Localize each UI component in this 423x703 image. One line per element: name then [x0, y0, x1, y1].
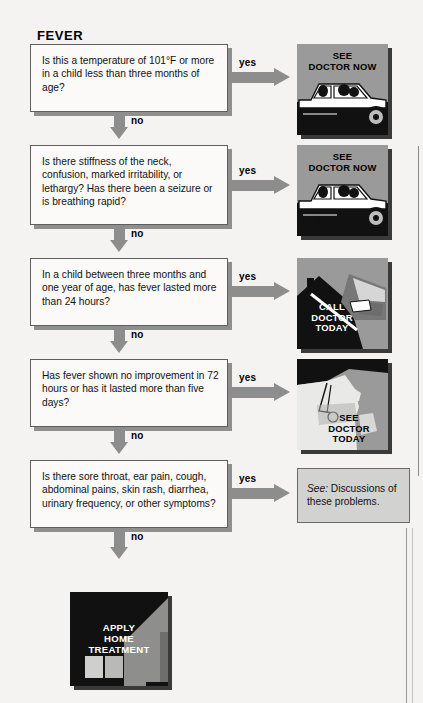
arrow-shaft	[228, 72, 276, 83]
no-label-2: no	[131, 228, 144, 239]
arrow-head	[110, 341, 128, 353]
question-box-4: Has fever shown no improvement in 72 hou…	[30, 359, 228, 427]
arrow-shaft	[228, 180, 276, 191]
outcome-panel-apply-home-treatment: APPLY HOME TREATMENT	[70, 592, 168, 686]
question-box-5: Is there sore throat, ear pain, cough, a…	[30, 460, 228, 528]
question-text-4: Has fever shown no improvement in 72 hou…	[31, 360, 227, 418]
page-title: FEVER	[37, 28, 83, 43]
panel-caption-4: SEE DOCTOR TODAY	[321, 413, 377, 445]
no-label-4: no	[131, 430, 144, 441]
arrow-head	[110, 547, 128, 559]
arrow-head	[110, 240, 128, 252]
action-panel-see-doctor-today: SEE DOCTOR TODAY	[297, 359, 388, 450]
panel-caption-1: SEE DOCTOR NOW	[297, 51, 388, 72]
yes-label-5: yes	[239, 473, 256, 484]
yes-arrow-2	[228, 180, 290, 191]
see-discussions-text: See: Discussions of these problems.	[298, 469, 409, 509]
no-arrow-2	[114, 225, 125, 251]
yes-arrow-4	[228, 387, 290, 398]
panel-caption-3: CALL DOCTOR TODAY	[301, 302, 363, 334]
page-edge-rule-top	[418, 146, 419, 476]
action-panel-call-doctor-today: CALL DOCTOR TODAY	[297, 258, 388, 349]
panel-caption-2: SEE DOCTOR NOW	[297, 152, 388, 173]
no-label-3: no	[131, 329, 144, 340]
arrow-shaft	[228, 387, 276, 398]
yes-arrow-3	[228, 286, 290, 297]
arrow-head	[274, 176, 290, 194]
outcome-caption: APPLY HOME TREATMENT	[70, 622, 168, 655]
arrow-head	[274, 383, 290, 401]
question-box-3: In a child between three months and one …	[30, 258, 228, 326]
arrow-shaft	[114, 326, 125, 342]
yes-label-2: yes	[239, 165, 256, 176]
no-arrow-5	[114, 528, 125, 558]
arrow-shaft	[228, 488, 276, 499]
no-label-1: no	[131, 115, 144, 126]
action-panel-see-doctor-now-2: SEE DOCTOR NOW	[297, 145, 388, 236]
arrow-head	[274, 68, 290, 86]
question-text-3: In a child between three months and one …	[31, 259, 227, 317]
see-lead: See:	[307, 483, 328, 494]
question-text-2: Is there stiffness of the neck, confusio…	[31, 146, 227, 218]
question-box-2: Is there stiffness of the neck, confusio…	[30, 145, 228, 225]
yes-label-1: yes	[239, 57, 256, 68]
page-edge-rule-bottom	[406, 528, 407, 703]
no-arrow-3	[114, 326, 125, 352]
action-panel-see-doctor-now-1: SEE DOCTOR NOW	[297, 44, 388, 135]
fever-decision-chart: FEVER Is this a temperature of 101°F or …	[0, 0, 423, 703]
arrow-shaft	[114, 528, 125, 548]
yes-arrow-1	[228, 72, 290, 83]
no-arrow-1	[114, 112, 125, 138]
no-label-5: no	[131, 531, 144, 542]
arrow-shaft	[114, 225, 125, 241]
arrow-head	[274, 484, 290, 502]
see-discussions-box: See: Discussions of these problems.	[297, 468, 410, 523]
arrow-head	[110, 442, 128, 454]
arrow-head	[274, 282, 290, 300]
yes-label-3: yes	[239, 271, 256, 282]
arrow-shaft	[114, 112, 125, 128]
arrow-shaft	[114, 427, 125, 443]
yes-label-4: yes	[239, 372, 256, 383]
question-box-1: Is this a temperature of 101°F or more i…	[30, 44, 228, 112]
no-arrow-4	[114, 427, 125, 453]
arrow-shaft	[228, 286, 276, 297]
question-text-5: Is there sore throat, ear pain, cough, a…	[31, 461, 227, 519]
question-text-1: Is this a temperature of 101°F or more i…	[31, 45, 227, 103]
page-edge-rule-bottom-secondary	[412, 528, 413, 703]
yes-arrow-5	[228, 488, 290, 499]
arrow-head	[110, 127, 128, 139]
